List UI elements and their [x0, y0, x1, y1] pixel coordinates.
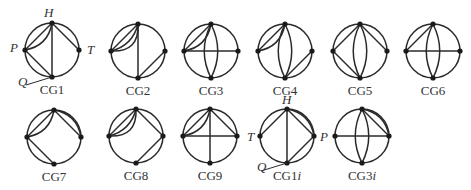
vertex-dot — [207, 106, 212, 111]
chord-edge — [360, 24, 367, 78]
vertex-dot — [234, 133, 239, 138]
vertex-dot — [208, 21, 213, 26]
vertex-dot — [255, 48, 260, 53]
vertex-dot — [311, 133, 316, 138]
chord-graph-cg6: CG6 — [403, 21, 462, 98]
chord-edge — [285, 24, 292, 78]
vertex-label: P — [9, 40, 18, 55]
outer-circle — [27, 110, 81, 164]
chord-graph-cg9: CG9 — [180, 106, 239, 183]
chord-graph-cg5: CG5 — [330, 21, 389, 98]
graph-label: CG6 — [421, 83, 446, 98]
outer-circle — [258, 24, 312, 78]
graph-label: CG8 — [124, 168, 149, 183]
vertex-dot — [160, 133, 165, 138]
vertex-dot — [49, 20, 54, 25]
vertex-dot — [257, 133, 262, 138]
vertex-dot — [309, 48, 314, 53]
vertex-dot — [51, 107, 56, 112]
vertex-dot — [332, 133, 337, 138]
vertex-dot — [76, 47, 81, 52]
chord-graph-cg7: CG7 — [24, 107, 83, 184]
chord-graph-cg3: CG3 — [181, 21, 240, 98]
vertex-dot — [330, 48, 335, 53]
vertex-dot — [384, 48, 389, 53]
vertex-dot — [357, 75, 362, 80]
vertex-label: Q — [257, 159, 267, 174]
vertex-dot — [135, 75, 140, 80]
graph-label: CG9 — [198, 168, 223, 183]
vertex-dot — [208, 75, 213, 80]
vertex-dot — [133, 106, 138, 111]
outer-circle — [333, 24, 387, 78]
vertex-dot — [207, 160, 212, 165]
vertex-dot — [135, 21, 140, 26]
vertex-label: P — [319, 129, 328, 144]
vertex-dot — [282, 21, 287, 26]
graph-label: CG3i — [348, 168, 377, 183]
chord-graph-cg3i: CG3i — [332, 106, 391, 183]
chord-edge — [278, 24, 285, 78]
chord-edge — [353, 24, 360, 78]
vertex-label: H — [281, 92, 292, 107]
vertex-label: Q — [18, 74, 28, 89]
graph-label: CG2 — [126, 83, 151, 98]
vertex-dot — [357, 21, 362, 26]
chord-graph-cg8: CG8 — [106, 106, 165, 183]
vertex-dot — [180, 133, 185, 138]
vertex-dot — [108, 48, 113, 53]
vertex-dot — [133, 160, 138, 165]
vertex-dot — [359, 160, 364, 165]
vertex-dot — [430, 21, 435, 26]
vertex-dot — [284, 106, 289, 111]
graph-label: CG1i — [273, 168, 302, 183]
vertex-dot — [51, 161, 56, 166]
vertex-dot — [162, 48, 167, 53]
vertex-dot — [430, 75, 435, 80]
vertex-dot — [24, 134, 29, 139]
chord-graph-cg1i: HTPQCG1i — [247, 92, 328, 183]
vertex-dot — [457, 48, 462, 53]
vertex-dot — [181, 48, 186, 53]
graph-label: CG7 — [42, 169, 67, 184]
vertex-dot — [403, 48, 408, 53]
graph-label: CG5 — [348, 83, 373, 98]
chord-graph-cg1: HPTQCG1 — [9, 5, 95, 97]
vertex-label: T — [247, 129, 255, 144]
chord-diagram-figure: HPTQCG1CG2CG3CG4CG5CG6CG7CG8CG9HTPQCG1iC… — [0, 0, 471, 190]
vertex-dot — [22, 47, 27, 52]
vertex-dot — [386, 133, 391, 138]
graph-label: CG1 — [40, 82, 65, 97]
graph-label: CG3 — [199, 83, 224, 98]
vertex-label: H — [43, 5, 54, 20]
vertex-dot — [282, 75, 287, 80]
vertex-dot — [235, 48, 240, 53]
vertex-dot — [359, 106, 364, 111]
vertex-dot — [78, 134, 83, 139]
chord-graph-cg4: CG4 — [255, 21, 314, 98]
vertex-dot — [106, 133, 111, 138]
chord-graph-cg2: CG2 — [108, 21, 167, 98]
vertex-label: T — [87, 42, 95, 57]
